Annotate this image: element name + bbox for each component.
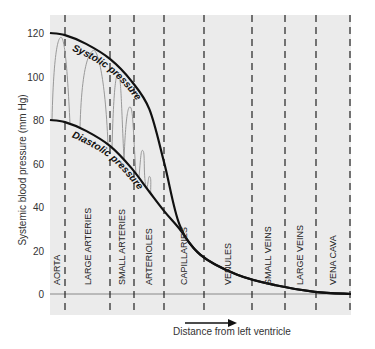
y-tick-label: 80	[33, 115, 45, 126]
blood-pressure-chart: 020406080100120 AORTALARGE ARTERIESSMALL…	[0, 0, 375, 349]
x-axis-label: Distance from left ventricle	[173, 326, 291, 337]
y-tick-label: 120	[27, 28, 44, 39]
y-axis-ticks: 020406080100120	[27, 28, 44, 300]
segment-label: AORTA	[52, 255, 62, 285]
segment-label: VENULES	[223, 243, 233, 285]
y-axis-label: Systemic blood pressure (mm Hg)	[17, 94, 28, 245]
segment-label: CAPILLARIES	[179, 227, 189, 285]
segment-label: VENA CAVA	[328, 235, 338, 285]
segment-label: SMALL ARTERIES	[117, 209, 127, 285]
segment-label: ARTERIOLES	[144, 228, 154, 285]
y-tick-label: 0	[38, 289, 44, 300]
segment-label: LARGE ARTERIES	[83, 208, 93, 285]
y-tick-label: 40	[33, 202, 45, 213]
y-tick-label: 100	[27, 72, 44, 83]
y-tick-label: 60	[33, 159, 45, 170]
y-tick-label: 20	[33, 246, 45, 257]
segment-label: LARGE VEINS	[295, 225, 305, 285]
segment-label: SMALL VEINS	[263, 226, 273, 285]
